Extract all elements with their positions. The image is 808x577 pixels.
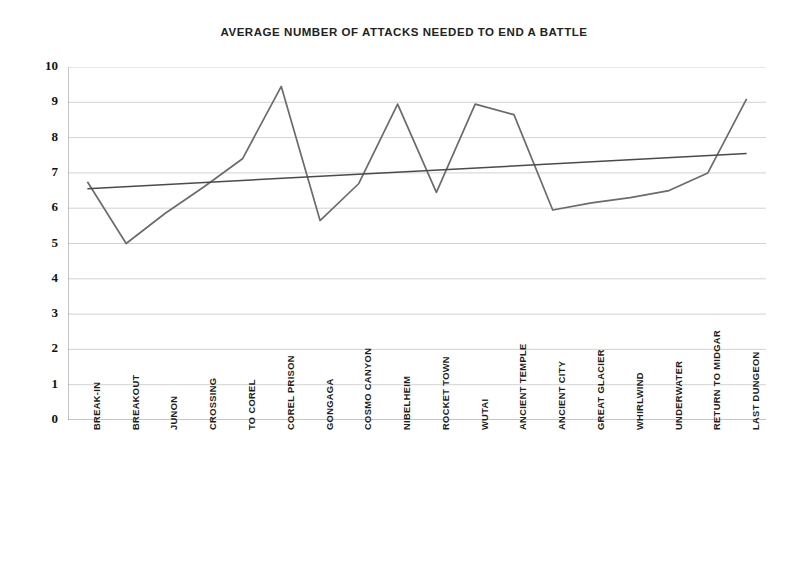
y-tick-label: 10 xyxy=(24,58,58,74)
y-tick-label: 4 xyxy=(24,270,58,286)
data-series-line xyxy=(87,86,746,243)
y-tick-label: 3 xyxy=(24,305,58,321)
plot-svg xyxy=(68,67,766,420)
y-tick-label: 9 xyxy=(24,93,58,109)
y-tick-label: 6 xyxy=(24,199,58,215)
y-tick-label: 5 xyxy=(24,235,58,251)
chart-title: AVERAGE NUMBER OF ATTACKS NEEDED TO END … xyxy=(0,26,808,38)
y-tick-label: 7 xyxy=(24,164,58,180)
plot-area xyxy=(68,67,766,420)
gridlines xyxy=(68,67,766,420)
y-tick-label: 0 xyxy=(24,411,58,427)
chart-container: AVERAGE NUMBER OF ATTACKS NEEDED TO END … xyxy=(0,0,808,577)
trendline xyxy=(87,153,746,188)
y-tick-label: 2 xyxy=(24,340,58,356)
y-tick-label: 1 xyxy=(24,376,58,392)
y-tick-label: 8 xyxy=(24,129,58,145)
